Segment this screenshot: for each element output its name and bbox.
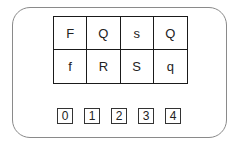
grid-cell: Q [87,17,120,50]
letter-grid: F Q s Q f R S q [53,16,188,84]
grid-cell: Q [154,17,187,50]
grid-cell: f [54,50,87,83]
grid-cell: S [121,50,154,83]
number-box-1: 1 [84,108,100,124]
grid-cell: q [154,50,187,83]
grid-cell: R [87,50,120,83]
number-box-2: 2 [111,108,127,124]
number-box-row: 0 1 2 3 4 [57,108,181,124]
number-box-4: 4 [165,108,181,124]
number-box-3: 3 [138,108,154,124]
grid-cell: s [121,17,154,50]
grid-cell: F [54,17,87,50]
number-box-0: 0 [57,108,73,124]
